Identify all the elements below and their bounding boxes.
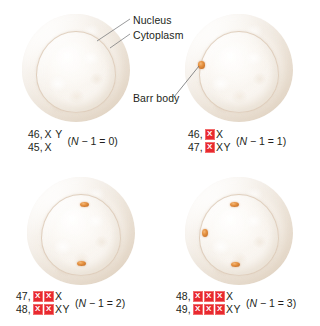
- karyotype-caption-top-left: 46,X Y45,X (N − 1 = 0): [28, 128, 118, 153]
- karyotype-lines: 48,XXXX49,XXXXY: [176, 290, 241, 315]
- inactive-x-chip: X: [215, 304, 225, 315]
- karyotype-row: 47,XXY: [188, 141, 231, 153]
- inactive-x-chip: X: [204, 304, 214, 315]
- cell-illustration-top-left: [22, 14, 130, 122]
- karyotype-count: 46,: [28, 128, 43, 140]
- label-cytoplasm: Cytoplasm: [133, 29, 184, 41]
- karyotype-count: 49,: [176, 303, 191, 315]
- active-chromosomes: XY: [55, 303, 70, 315]
- cell-illustration-bottom-left: [27, 177, 135, 285]
- barr-body-granule: [77, 261, 86, 266]
- karyotype-caption-top-right: 46,XX47,XXY (N − 1 = 1): [188, 128, 286, 153]
- inactive-x-chip: X: [215, 291, 225, 302]
- inactive-x-chip: X: [33, 304, 43, 315]
- karyotype-caption-bottom-left: 47,XXX48,XXXY (N − 1 = 2): [16, 290, 125, 315]
- inactive-x-group: X: [205, 129, 215, 140]
- barr-body-granule: [202, 229, 208, 237]
- active-chromosomes: X Y: [45, 128, 63, 140]
- karyotype-count: 47,: [16, 290, 31, 302]
- inactive-x-chip: X: [204, 291, 214, 302]
- cell-illustration-bottom-right: [185, 177, 293, 285]
- active-chromosomes: X: [55, 290, 62, 302]
- karyotype-lines: 46,XX47,XXY: [188, 128, 231, 153]
- barr-body-granule: [231, 262, 240, 267]
- formula-variable-n: N: [239, 135, 247, 147]
- inactive-x-group: XXX: [193, 291, 225, 302]
- formula-n-minus-one: (N − 1 = 1): [236, 135, 286, 147]
- inactive-x-chip: X: [33, 291, 43, 302]
- formula-n-minus-one: (N − 1 = 0): [68, 135, 118, 147]
- nucleus-region: [199, 31, 279, 113]
- inactive-x-group: XX: [33, 304, 54, 315]
- karyotype-row: 48,XXXY: [16, 303, 70, 315]
- karyotype-row: 48,XXXX: [176, 290, 241, 302]
- inactive-x-chip: X: [193, 304, 203, 315]
- karyotype-count: 46,: [188, 128, 203, 140]
- karyotype-caption-bottom-right: 48,XXXX49,XXXXY (N − 1 = 3): [176, 290, 296, 315]
- karyotype-lines: 46,X Y45,X: [28, 128, 63, 153]
- inactive-x-chip: X: [205, 142, 215, 153]
- active-chromosomes: XY: [226, 303, 241, 315]
- inactive-x-group: XX: [33, 291, 54, 302]
- label-barr-body: Barr body: [133, 92, 179, 104]
- active-chromosomes: X: [226, 290, 233, 302]
- nucleus-region: [36, 31, 116, 113]
- karyotype-count: 47,: [188, 141, 203, 153]
- karyotype-count: 45,: [28, 141, 43, 153]
- formula-n-minus-one: (N − 1 = 3): [246, 297, 296, 309]
- karyotype-row: 45,X: [28, 141, 63, 153]
- inactive-x-chip: X: [44, 304, 54, 315]
- barr-body-granule: [198, 61, 205, 69]
- active-chromosomes: XY: [216, 141, 231, 153]
- inactive-x-group: X: [205, 142, 215, 153]
- karyotype-count: 48,: [176, 290, 191, 302]
- active-chromosomes: X: [216, 128, 223, 140]
- active-chromosomes: X: [45, 141, 52, 153]
- inactive-x-group: XXX: [193, 304, 225, 315]
- formula-n-minus-one: (N − 1 = 2): [75, 297, 125, 309]
- inactive-x-chip: X: [193, 291, 203, 302]
- karyotype-row: 49,XXXXY: [176, 303, 241, 315]
- label-nucleus: Nucleus: [133, 14, 172, 26]
- barr-body-figure: Nucleus Cytoplasm Barr body 46,X Y45,X (…: [0, 0, 320, 326]
- inactive-x-chip: X: [44, 291, 54, 302]
- cell-illustration-top-right: [185, 14, 293, 122]
- barr-body-granule: [230, 202, 239, 207]
- barr-body-granule: [80, 202, 89, 207]
- formula-variable-n: N: [249, 297, 257, 309]
- karyotype-row: 47,XXX: [16, 290, 70, 302]
- formula-variable-n: N: [78, 297, 86, 309]
- inactive-x-chip: X: [205, 129, 215, 140]
- karyotype-row: 46,X Y: [28, 128, 63, 140]
- karyotype-count: 48,: [16, 303, 31, 315]
- formula-variable-n: N: [71, 135, 79, 147]
- karyotype-row: 46,XX: [188, 128, 231, 140]
- karyotype-lines: 47,XXX48,XXXY: [16, 290, 70, 315]
